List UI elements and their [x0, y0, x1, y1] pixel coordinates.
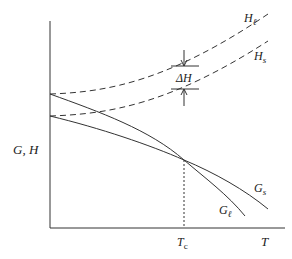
delta-h-label: ΔH — [175, 71, 193, 85]
curve-g-solid — [50, 116, 268, 209]
curve-g-liquid — [50, 94, 245, 216]
curve-h-solid — [50, 41, 268, 116]
x-axis-label: T — [261, 234, 269, 249]
label-g-solid: Gs — [254, 181, 267, 197]
tc-label: Tc — [177, 235, 188, 251]
label-g-liquid: Gℓ — [219, 203, 232, 219]
label-h-liquid: Hℓ — [243, 11, 257, 27]
label-h-solid: Hs — [253, 49, 267, 65]
gibbs-enthalpy-diagram: ΔH Hℓ Hs Gs Gℓ G, H T Tc — [0, 0, 292, 259]
y-axis-label: G, H — [13, 142, 39, 157]
curve-h-liquid — [50, 14, 268, 94]
